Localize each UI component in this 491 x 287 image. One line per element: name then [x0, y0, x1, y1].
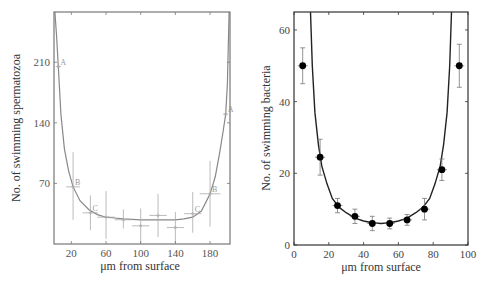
- point-label: C: [92, 204, 97, 213]
- y-tick-label: 210: [34, 56, 51, 68]
- data-point: [352, 213, 359, 220]
- x-tick-label: 100: [460, 248, 477, 260]
- right-x-axis-label: μm from surface: [341, 260, 421, 274]
- left-plot-area: ABCCBA: [55, 12, 234, 243]
- x-tick-label: 0: [291, 248, 297, 260]
- data-point: [404, 217, 411, 224]
- left-plot-frame: [54, 12, 230, 244]
- data-point: [369, 220, 376, 227]
- point-label: C: [195, 205, 200, 214]
- data-point: [334, 202, 341, 209]
- data-point: [299, 62, 306, 69]
- figure: ABCCBA 206010014018070140210 μm from sur…: [0, 0, 491, 287]
- fit-curve: [55, 12, 229, 220]
- fit-curve: [311, 12, 452, 224]
- y-tick-label: 140: [34, 117, 51, 129]
- left-x-axis-label: μm from surface: [100, 259, 180, 273]
- y-tick-label: 0: [285, 239, 291, 251]
- y-tick-label: 70: [39, 177, 51, 189]
- data-point: [386, 220, 393, 227]
- right-chart-panel: 0204060801000204060 μm from surface No. …: [259, 12, 477, 274]
- x-tick-label: 20: [66, 247, 78, 259]
- point-label: A: [228, 105, 234, 114]
- left-y-axis-label: No. of swimming spermatozoa: [9, 53, 23, 202]
- right-plot-frame: [294, 12, 468, 245]
- point-label: A: [60, 58, 66, 67]
- left-chart-panel: ABCCBA 206010014018070140210 μm from sur…: [9, 12, 234, 273]
- right-y-axis-label: No. of swimming bacteria: [259, 65, 273, 191]
- data-point: [439, 166, 446, 173]
- data-point: [421, 206, 428, 213]
- data-point: [456, 62, 463, 69]
- y-tick-label: 40: [279, 96, 291, 108]
- x-tick-label: 20: [323, 248, 335, 260]
- x-tick-label: 80: [428, 248, 440, 260]
- point-label: B: [212, 185, 217, 194]
- point-label: B: [75, 178, 80, 187]
- x-tick-label: 180: [202, 247, 219, 259]
- x-tick-label: 100: [132, 247, 149, 259]
- right-plot-area: [298, 12, 465, 231]
- y-tick-label: 60: [279, 24, 291, 36]
- x-tick-label: 60: [393, 248, 405, 260]
- x-tick-label: 140: [167, 247, 184, 259]
- data-point: [317, 154, 324, 161]
- y-tick-label: 20: [279, 167, 291, 179]
- x-tick-label: 60: [101, 247, 113, 259]
- x-tick-label: 40: [358, 248, 370, 260]
